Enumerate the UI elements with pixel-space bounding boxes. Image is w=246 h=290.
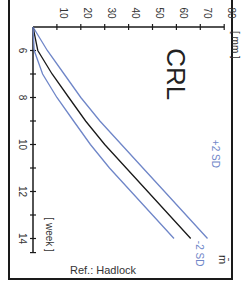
mm-tick-label: 70 — [202, 7, 213, 19]
week-tick-label: 10 — [17, 139, 28, 151]
mm-tick-label: 40 — [130, 7, 141, 19]
week-unit-label: [ week ] — [44, 217, 55, 252]
upper-sd-label: +2 SD — [210, 140, 221, 168]
mm-tick-label: 30 — [106, 7, 117, 19]
mm-tick-label: 20 — [82, 7, 93, 19]
week-tick-label: 14 — [17, 233, 28, 245]
reference-text: Ref.: Hadlock — [70, 264, 137, 276]
mm-unit-label: [ mm ] — [230, 31, 241, 59]
week-tick-label: 12 — [17, 186, 28, 198]
mm-tick-label: 50 — [154, 7, 165, 19]
mm-tick-label: 60 — [178, 7, 189, 19]
week-tick-label: 6 — [17, 48, 28, 54]
week-tick-label: 8 — [17, 95, 28, 101]
crl-growth-chart: 1020304050607080[ mm ]68101214[ week ]CR… — [0, 0, 246, 290]
lower-sd-label: -2 SD — [194, 241, 205, 267]
mm-tick-label: 80 — [226, 7, 237, 19]
mean-label: m̄ — [217, 255, 229, 264]
mm-tick-label: 10 — [58, 7, 69, 19]
series-line-2 — [33, 27, 174, 239]
chart-title-text: CRL — [161, 48, 191, 100]
